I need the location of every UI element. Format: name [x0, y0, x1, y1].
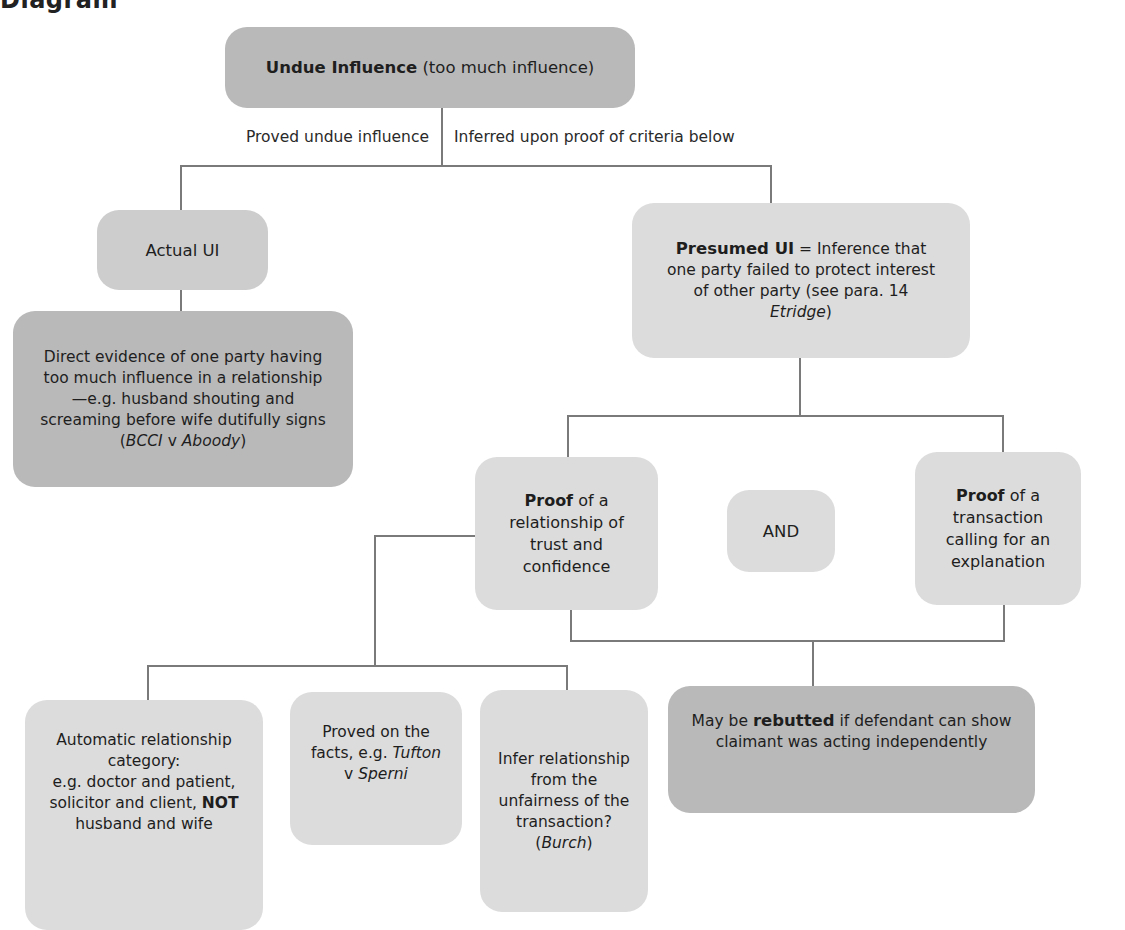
proof-label: Proof	[525, 491, 574, 510]
presumed-ui-box: Presumed UI = Inference that one party f…	[632, 203, 970, 358]
case-name: Sperni	[358, 765, 408, 783]
connector	[147, 665, 149, 701]
automatic-exclusion: husband and wife	[75, 815, 213, 833]
connector	[147, 665, 568, 667]
connector	[180, 165, 772, 167]
proof-relationship-box: Proof of a relationship of trust and con…	[475, 457, 658, 610]
connector	[570, 640, 1005, 642]
connector	[374, 535, 376, 666]
root-undue-influence-box: Undue Influence (too much influence)	[225, 27, 635, 108]
diagram-heading: Diagram	[0, 0, 118, 14]
infer-relationship-box: Infer relationship from the unfairness o…	[480, 690, 648, 912]
connector	[812, 640, 814, 687]
versus: v	[163, 432, 182, 450]
branch-label-proved: Proved undue influence	[246, 128, 429, 146]
direct-evidence-box: Direct evidence of one party having too …	[13, 311, 353, 487]
rebutted-text: May be	[692, 712, 753, 730]
automatic-category-box: Automatic relationship category:e.g. doc…	[25, 700, 263, 930]
and-box: AND	[727, 490, 835, 572]
connector	[567, 415, 569, 458]
root-subtitle: (too much influence)	[417, 58, 594, 77]
connector	[1003, 605, 1005, 641]
case-name: Aboody	[182, 432, 240, 450]
connector	[180, 165, 182, 211]
proof-transaction-box: Proof of a transaction calling for an ex…	[915, 452, 1081, 605]
case-name: Burch	[541, 834, 586, 852]
connector	[441, 108, 443, 166]
paren: )	[826, 303, 832, 321]
connector	[1002, 415, 1004, 453]
connector	[374, 535, 476, 537]
case-name: Etridge	[770, 303, 826, 321]
proof-label: Proof	[956, 486, 1005, 505]
and-label: AND	[763, 521, 799, 542]
connector	[799, 358, 801, 416]
connector	[770, 165, 772, 205]
root-title: Undue Influence	[266, 58, 417, 77]
rebutted-box: May be rebutted if defendant can show cl…	[668, 686, 1035, 813]
paren: )	[240, 432, 246, 450]
paren: )	[587, 834, 593, 852]
actual-ui-box: Actual UI	[97, 210, 268, 290]
versus: v	[344, 765, 358, 783]
connector	[180, 290, 182, 312]
presumed-ui-title: Presumed UI	[676, 239, 794, 258]
branch-label-inferred: Inferred upon proof of criteria below	[454, 128, 735, 146]
connector	[566, 665, 568, 691]
case-name: BCCI	[126, 432, 163, 450]
automatic-text: Automatic relationship category:	[56, 731, 232, 770]
rebutted-label: rebutted	[753, 711, 835, 730]
proved-on-facts-box: Proved on the facts, e.g. Tufton v Spern…	[290, 692, 462, 845]
case-name: Tufton	[393, 744, 442, 762]
actual-ui-title: Actual UI	[146, 240, 220, 261]
connector	[570, 610, 572, 641]
connector	[567, 415, 1004, 417]
not-label: NOT	[202, 794, 239, 812]
